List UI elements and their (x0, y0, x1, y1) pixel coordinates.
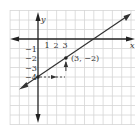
y-tick-neg3: −3 (25, 64, 37, 73)
x-tick-1: 1 (45, 41, 50, 50)
y-axis-arrow-down-icon (36, 114, 41, 123)
x-axis-label: x (130, 41, 135, 50)
point-label: (3, −2) (71, 54, 99, 63)
coordinate-plane: y x 1 2 3 −1 −2 −3 −4 (3, −2) (0, 0, 140, 129)
y-tick-neg2: −2 (25, 54, 37, 63)
rise-arrow-head-icon (64, 61, 68, 67)
x-tick-2: 2 (54, 41, 59, 50)
point-3-neg2 (64, 56, 68, 60)
y-axis-label: y (40, 15, 46, 24)
x-tick-3: 3 (63, 41, 68, 50)
point-0-neg4 (36, 75, 40, 79)
run-arrow-head-icon (51, 75, 57, 79)
y-axis-arrow-up-icon (36, 12, 41, 21)
y-tick-neg1: −1 (25, 45, 37, 54)
line-arrow-lower-icon (19, 82, 28, 90)
x-axis-arrow-left-icon (10, 37, 19, 42)
